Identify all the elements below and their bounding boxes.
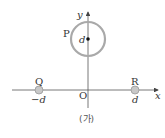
charge-q xyxy=(35,86,43,94)
charge-q-position: −d xyxy=(31,94,46,105)
origin-label: O xyxy=(79,90,87,101)
ring-p-label: P xyxy=(63,28,70,39)
ring-center-dot xyxy=(86,37,90,41)
diagram-canvas: y x O P d Q −d R d (가) xyxy=(0,0,165,138)
charge-q-label: Q xyxy=(35,76,43,87)
caption: (가) xyxy=(79,114,94,124)
coordinate-diagram: y x O P d Q −d R d (가) xyxy=(0,0,165,138)
x-axis-label: x xyxy=(155,90,161,101)
ring-center-label: d xyxy=(79,34,85,45)
y-axis-label: y xyxy=(76,9,83,20)
charge-r-position: d xyxy=(132,94,138,105)
charge-r xyxy=(131,86,139,94)
charge-r-label: R xyxy=(131,76,139,87)
